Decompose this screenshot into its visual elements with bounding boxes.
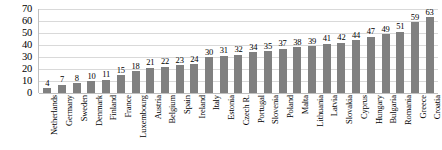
x-axis-label-slot: Greece [407,94,422,150]
x-axis-tick-label: Denmark [95,64,103,95]
x-axis-tick-label: France [124,72,132,95]
bar-value-label: 49 [381,25,389,33]
x-axis-tick-label: Netherlands [50,55,58,95]
x-axis-tick-label: Germany [65,64,73,95]
x-axis-tick-label: Croatia [433,71,441,95]
x-axis-label-slot: Sweden [68,94,83,150]
bar [367,37,375,93]
x-axis-label-slot: Luxembourg [127,94,142,150]
bar-value-label: 32 [234,45,242,53]
x-axis-label-slot: Ireland [186,94,201,150]
bar-value-label: 4 [45,79,49,87]
bar-value-label: 30 [205,48,213,56]
bar-value-label: 51 [396,22,404,30]
x-axis-label-slot: Hungary [363,94,378,150]
bar-value-label: 47 [367,27,375,35]
x-axis-label-slot: Spain [172,94,187,150]
bar-value-label: 44 [352,31,360,39]
x-axis-tick-label: Bulgaria [389,67,397,95]
bar-value-label: 8 [75,74,79,82]
bar-value-label: 35 [264,42,272,50]
x-axis-label-slot: Czech R. [231,94,246,150]
bar-value-label: 23 [176,56,184,64]
y-axis-tick-label: 0 [27,88,32,98]
bar-value-label: 24 [190,55,198,63]
y-axis-tick-label: 50 [22,28,32,38]
x-axis-tick-label: Finland [109,70,117,95]
x-axis-label-slot: Denmark [83,94,98,150]
x-axis-tick-label: Sweden [80,69,88,95]
bar-value-label: 21 [146,58,154,66]
x-axis-label-slot: Italy [201,94,216,150]
y-axis-tick-label: 30 [22,52,32,62]
bar-value-label: 41 [323,34,331,42]
y-axis-tick-label: 70 [22,4,32,14]
bar [352,40,360,93]
x-axis-tick-label: Greece [419,72,427,95]
x-axis-tick-label: Cyprus [360,71,368,95]
x-axis-tick-label: Italy [212,80,220,95]
x-axis-label-slot: France [113,94,128,150]
x-axis-label-slot: Slovenia [260,94,275,150]
bar [308,46,316,93]
x-axis-tick-label: Ireland [198,72,206,95]
x-axis-label-slot: Estonia [216,94,231,150]
bar-value-label: 38 [293,38,301,46]
x-axis-tick-label: Latvia [330,74,338,95]
bar [249,52,257,93]
x-axis-label-slot: Bulgaria [378,94,393,150]
y-axis-tick-label: 60 [22,16,32,26]
bar-value-label: 39 [308,37,316,45]
x-axis-label-slot: Romania [393,94,408,150]
y-axis: 706050403020100 [0,0,36,100]
x-axis-tick-label: Luxembourg [139,52,147,95]
bar-value-label: 7 [60,75,64,83]
bar-value-label: 42 [337,33,345,41]
x-axis-tick-label: Poland [286,72,294,95]
x-axis-label-slot: Malta [289,94,304,150]
x-axis-label-slot: Netherlands [39,94,54,150]
x-axis-tick-label: Romania [404,65,412,95]
x-axis-tick-label: Slovenia [271,66,279,95]
x-axis-tick-label: Belgium [168,66,176,95]
x-axis-label-slot: Germany [54,94,69,150]
x-axis-label-slot: Lithuania [304,94,319,150]
x-axis-tick-label: Estonia [227,70,235,95]
x-axis-tick-label: Czech R. [242,65,250,95]
x-axis-tick-label: Spain [183,76,191,95]
y-axis-tick-label: 40 [22,40,32,50]
bar [411,22,419,93]
bar-value-label: 59 [411,13,419,21]
x-axis-tick-label: Malta [301,76,309,95]
y-axis-tick-label: 10 [22,76,32,86]
x-axis-tick-label: Slovakia [345,66,353,95]
x-axis-label-slot: Finland [98,94,113,150]
x-axis-label-slot: Austria [142,94,157,150]
x-axis-label-slot: Poland [275,94,290,150]
bar-value-label: 34 [249,43,257,51]
x-axis-tick-label: Austria [154,71,162,95]
x-axis-tick-label: Lithuania [316,63,324,95]
x-axis-tick-label: Portugal [257,67,265,95]
x-axis-label-slot: Latvia [319,94,334,150]
x-axis-label-slot: Slovakia [334,94,349,150]
bar-value-label: 22 [161,57,169,65]
y-axis-tick-label: 20 [22,64,32,74]
x-axis-label-slot: Croatia [422,94,437,150]
x-axis-label-slot: Cyprus [348,94,363,150]
bar-value-label: 63 [426,8,434,16]
x-axis-category-labels: NetherlandsGermanySwedenDenmarkFinlandFr… [38,94,438,150]
bar-value-label: 31 [220,46,228,54]
x-axis-label-slot: Belgium [157,94,172,150]
bar-value-label: 37 [279,39,287,47]
x-axis-label-slot: Portugal [245,94,260,150]
x-axis-tick-label: Hungary [375,66,383,95]
